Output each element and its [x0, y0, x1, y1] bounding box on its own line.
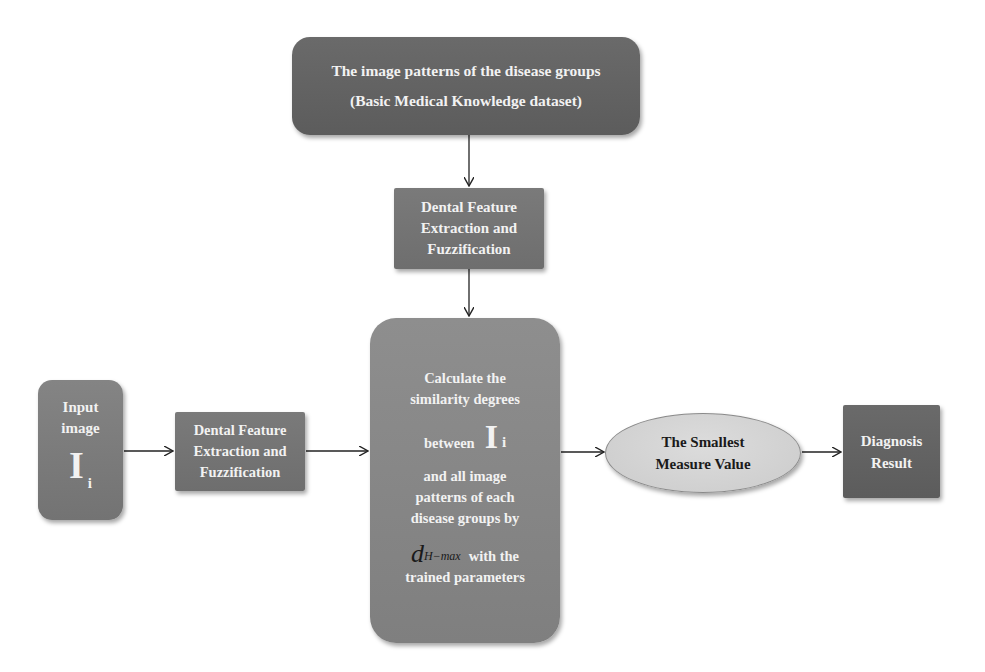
measure-symbol: d [411, 541, 424, 567]
feature-top-line: Extraction and [421, 218, 517, 239]
calc-line: and all image [424, 466, 507, 487]
input-symbol-main: I [69, 444, 84, 486]
feature-extraction-node-top: Dental Feature Extraction and Fuzzificat… [394, 188, 544, 269]
feature-left-line: Extraction and [193, 441, 286, 462]
feature-left-line: Fuzzification [200, 462, 281, 483]
feature-top-line: Fuzzification [427, 239, 510, 260]
calc-line: similarity degrees [410, 389, 520, 410]
calc-line: disease groups by [411, 508, 520, 529]
diagnosis-result-node: Diagnosis Result [843, 405, 940, 498]
calc-between-label: between [424, 433, 475, 454]
measure-subscript: H−max [424, 546, 461, 567]
calc-line: patterns of each [415, 487, 514, 508]
input-image-node: Input image Ii [38, 380, 123, 520]
calc-line: trained parameters [405, 567, 525, 588]
smallest-line: Measure Value [655, 453, 750, 475]
calc-symbol: I [485, 420, 498, 454]
knowledge-line-2: (Basic Medical Knowledge dataset) [350, 86, 582, 116]
feature-left-line: Dental Feature [194, 420, 287, 441]
calc-symbol-subscript: i [502, 432, 506, 453]
diagnosis-line: Result [871, 452, 912, 474]
similarity-calculation-node: Calculate the similarity degrees between… [370, 318, 560, 643]
input-line: Input [63, 397, 99, 418]
calc-between-row: between I i [424, 420, 506, 454]
feature-extraction-node-left: Dental Feature Extraction and Fuzzificat… [175, 412, 305, 491]
smallest-line: The Smallest [662, 431, 745, 453]
smallest-measure-ellipse: The Smallest Measure Value [605, 413, 801, 493]
diagnosis-line: Diagnosis [861, 430, 923, 452]
input-symbol: Ii [69, 445, 92, 503]
calc-line: Calculate the [424, 368, 506, 389]
calc-measure-row: d H−max with the [411, 541, 519, 567]
input-symbol-subscript: i [88, 475, 92, 491]
feature-top-line: Dental Feature [421, 197, 517, 218]
knowledge-line-1: The image patterns of the disease groups [331, 56, 600, 86]
calc-with-label: with the [469, 546, 519, 567]
knowledge-dataset-node: The image patterns of the disease groups… [292, 37, 640, 135]
input-line: image [61, 418, 99, 439]
